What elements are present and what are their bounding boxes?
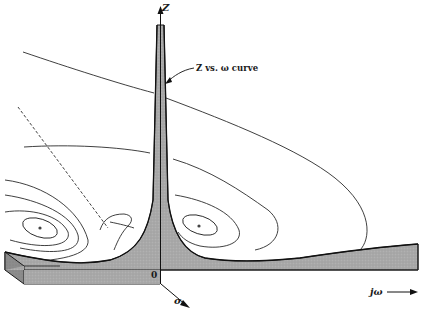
jw-axis-arrow-icon: [410, 289, 418, 295]
contour-mid-right: [173, 159, 278, 250]
contour-lines: [5, 52, 367, 262]
jw-axis-label: jω: [370, 287, 382, 297]
surface-slab: [5, 25, 418, 270]
contour-left-outer: [5, 195, 78, 252]
contour-upper-left: [23, 52, 154, 93]
callout-arrow-icon: [165, 77, 172, 84]
contour-fold-left: [100, 214, 131, 250]
z-vs-omega-callout-label: Z vs. ω curve: [196, 64, 258, 73]
contour-outer-right: [166, 98, 367, 250]
contour-mid-left: [24, 146, 150, 153]
z-axis-label: Z: [162, 3, 169, 13]
z-vs-omega-curve: [5, 25, 418, 263]
dashed-reference-line: [18, 107, 108, 228]
origin-label: 0: [151, 271, 157, 280]
left-pole-marker-icon: [38, 226, 41, 229]
surface-diagram: [0, 0, 424, 310]
contour-right-pole-outer: [175, 195, 239, 247]
sigma-axis-label: σ: [174, 296, 181, 306]
contour-left-mid: [5, 211, 68, 246]
right-pole-marker-icon: [197, 224, 200, 227]
